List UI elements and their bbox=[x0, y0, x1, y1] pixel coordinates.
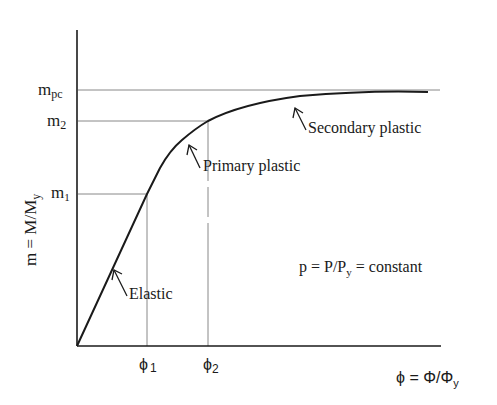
annotation-arrows bbox=[112, 108, 306, 296]
mpc-label: mpc bbox=[38, 80, 63, 101]
y-axis-title: m = M/My bbox=[21, 194, 43, 266]
constant-load-condition: p = P/Py = constant bbox=[299, 258, 423, 278]
elastic-label: Elastic bbox=[129, 285, 173, 302]
phi1-label: ϕ1 bbox=[139, 356, 157, 375]
secondary-plastic-arrow-icon bbox=[293, 108, 306, 130]
primary-plastic-arrow-icon bbox=[187, 145, 200, 168]
m2-label: m2 bbox=[47, 111, 66, 132]
diagram-canvas: mpc m2 m1 m = M/My ϕ1 ϕ2 ϕ = Φ/Φy Elasti… bbox=[0, 0, 497, 405]
elastic-arrow-icon bbox=[112, 270, 127, 296]
secondary-plastic-label: Secondary plastic bbox=[308, 119, 421, 137]
primary-plastic-label: Primary plastic bbox=[203, 157, 300, 175]
m1-label: m1 bbox=[51, 183, 70, 203]
moment-curvature-diagram: mpc m2 m1 m = M/My ϕ1 ϕ2 ϕ = Φ/Φy Elasti… bbox=[0, 0, 497, 405]
phi2-label: ϕ2 bbox=[203, 356, 219, 376]
x-axis-title: ϕ = Φ/Φy bbox=[396, 369, 459, 389]
